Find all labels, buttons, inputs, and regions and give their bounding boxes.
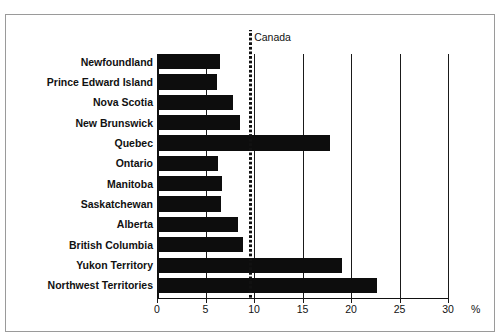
- gridline-30: [448, 54, 449, 298]
- y-axis-line: [157, 54, 159, 299]
- bar: [157, 115, 240, 130]
- bar: [157, 135, 330, 150]
- x-tick-label-15: 15: [297, 303, 309, 315]
- canada-reference-label: Canada: [254, 31, 291, 43]
- x-axis-unit-label: %: [471, 303, 480, 315]
- bar: [157, 176, 222, 191]
- bar: [157, 196, 221, 211]
- category-label-alberta: Alberta: [117, 218, 153, 230]
- category-label-new-brunswick: New Brunswick: [75, 117, 153, 129]
- category-label-nova-scotia: Nova Scotia: [93, 96, 153, 108]
- category-label-british-columbia: British Columbia: [69, 239, 153, 251]
- category-label-newfoundland: Newfoundland: [81, 56, 153, 68]
- gridline-20: [351, 54, 352, 298]
- bar: [157, 54, 220, 69]
- canada-reference-line: [249, 30, 252, 298]
- x-tick-label-0: 0: [154, 303, 160, 315]
- bar: [157, 156, 218, 171]
- bar: [157, 74, 217, 89]
- x-tick-label-20: 20: [345, 303, 357, 315]
- x-tick-label-25: 25: [394, 303, 406, 315]
- category-label-ontario: Ontario: [116, 157, 153, 169]
- bar: [157, 217, 238, 232]
- category-label-yukon-territory: Yukon Territory: [76, 259, 153, 271]
- gridline-25: [400, 54, 401, 298]
- x-tick-label-5: 5: [203, 303, 209, 315]
- clipped-caption: [10, 0, 490, 3]
- bar: [157, 95, 233, 110]
- x-tick-label-10: 10: [248, 303, 260, 315]
- bar: [157, 278, 377, 293]
- plot-area: [157, 54, 448, 298]
- category-label-northwest-territories: Northwest Territories: [48, 279, 153, 291]
- category-label-saskatchewan: Saskatchewan: [81, 198, 153, 210]
- category-label-prince-edward-island: Prince Edward Island: [47, 76, 153, 88]
- category-label-manitoba: Manitoba: [107, 178, 153, 190]
- x-tick-label-30: 30: [442, 303, 454, 315]
- category-label-quebec: Quebec: [114, 137, 153, 149]
- bar: [157, 237, 243, 252]
